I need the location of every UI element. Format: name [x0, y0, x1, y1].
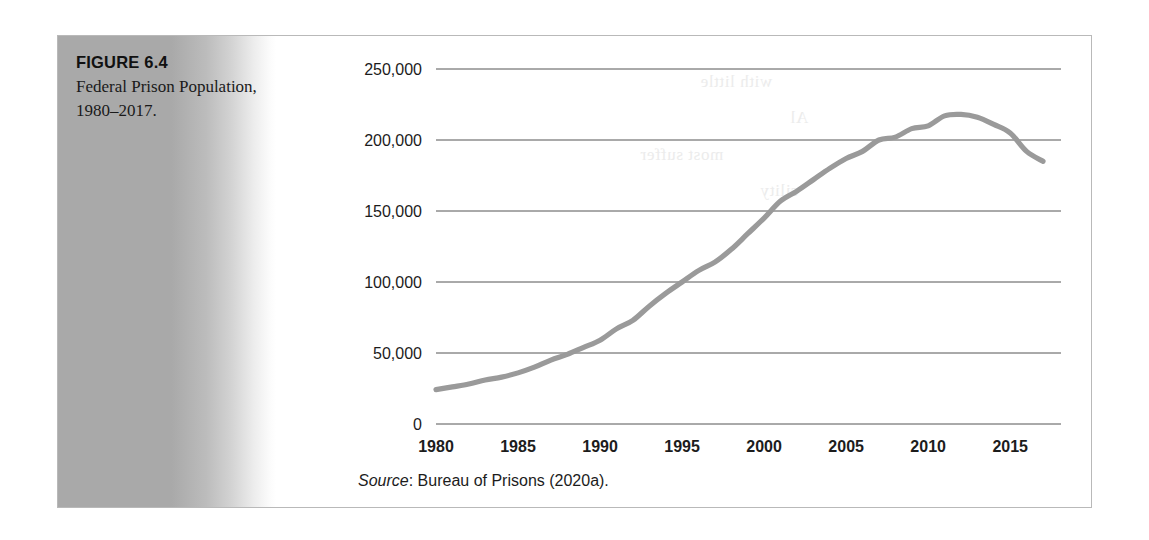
source-label: Source — [358, 472, 409, 489]
figure-number-label: FIGURE 6.4 — [76, 53, 264, 72]
chart-plot-area: 050,000100,000150,000200,000250,00019801… — [276, 36, 1091, 507]
x-axis-tick-label: 1990 — [582, 438, 618, 455]
x-axis-tick-label: 1995 — [664, 438, 700, 455]
source-citation: : Bureau of Prisons (2020a). — [409, 472, 609, 489]
figure-container: FIGURE 6.4 Federal Prison Population, 19… — [57, 35, 1092, 508]
y-axis-tick-label: 0 — [413, 416, 422, 433]
x-axis-tick-label: 2005 — [828, 438, 864, 455]
figure-caption-text: Federal Prison Population, 1980–2017. — [76, 75, 264, 123]
source-note: Source: Bureau of Prisons (2020a). — [358, 472, 609, 490]
figure-caption-panel: FIGURE 6.4 Federal Prison Population, 19… — [58, 36, 276, 507]
x-axis-tick-label: 2000 — [746, 438, 782, 455]
y-axis-tick-label: 250,000 — [364, 61, 422, 78]
x-axis-tick-label: 2015 — [992, 438, 1028, 455]
y-axis-tick-label: 50,000 — [373, 345, 422, 362]
data-series-line — [436, 114, 1043, 389]
y-axis-tick-label: 200,000 — [364, 132, 422, 149]
x-axis-tick-label: 1980 — [418, 438, 454, 455]
y-axis-tick-label: 150,000 — [364, 203, 422, 220]
x-axis-tick-label: 1985 — [500, 438, 536, 455]
x-axis-tick-label: 2010 — [910, 438, 946, 455]
line-chart: 050,000100,000150,000200,000250,00019801… — [276, 36, 1092, 507]
y-axis-tick-label: 100,000 — [364, 274, 422, 291]
